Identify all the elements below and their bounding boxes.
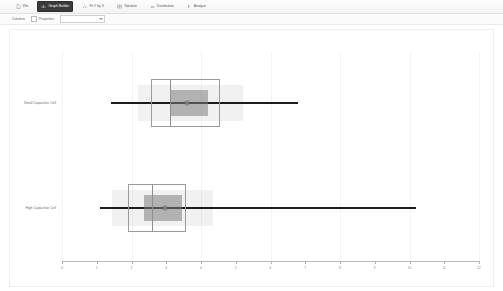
gridline xyxy=(62,52,63,260)
axis-tick xyxy=(166,261,167,264)
axis-tick-label: 7 xyxy=(304,266,306,270)
axis-tick-label: 3 xyxy=(165,266,167,270)
boxplot-chart: 0123456789101112Small Capacitive CellHig… xyxy=(10,30,493,286)
median-line xyxy=(152,185,153,231)
axis-tick xyxy=(444,261,445,264)
application-window: File Graph Builder Fit Y by X Tabulate D… xyxy=(0,0,503,291)
toolbar-item-label: Analyze xyxy=(194,2,206,11)
scatter-icon xyxy=(82,4,87,9)
function-icon xyxy=(187,4,192,9)
iqr-box[interactable] xyxy=(128,184,186,232)
axis-tick-label: 2 xyxy=(131,266,133,270)
axis-tick xyxy=(479,261,480,264)
axis-tick xyxy=(236,261,237,264)
toolbar-item-label: Distribution xyxy=(157,2,174,11)
toolbar-item-graph-builder[interactable]: Graph Builder xyxy=(37,1,73,12)
properties-selector[interactable]: Properties xyxy=(31,15,54,23)
properties-label: Properties xyxy=(39,15,54,23)
toolbar-item-file[interactable]: File xyxy=(12,1,32,12)
axis-tick-label: 8 xyxy=(339,266,341,270)
axis-tick xyxy=(62,261,63,264)
axis-tick-label: 5 xyxy=(235,266,237,270)
mean-marker xyxy=(185,101,190,106)
toolbar-item-label: File xyxy=(23,2,28,11)
axis-tick xyxy=(305,261,306,264)
gridline xyxy=(410,52,411,260)
axis-tick xyxy=(201,261,202,264)
axis-tick xyxy=(132,261,133,264)
median-line xyxy=(170,80,171,126)
value-field[interactable] xyxy=(60,15,105,23)
axis-tick-label: 12 xyxy=(477,266,481,270)
gridline xyxy=(271,52,272,260)
category-label: Small Capacitive Cell xyxy=(10,101,56,106)
axis-tick xyxy=(375,261,376,264)
columns-selector[interactable]: Columns xyxy=(12,15,25,23)
secondary-toolbar: Columns Properties xyxy=(0,14,503,25)
axis-tick-label: 4 xyxy=(200,266,202,270)
axis-tick-label: 9 xyxy=(374,266,376,270)
toolbar-item-label: Fit Y by X xyxy=(89,2,104,11)
category-label: High Capacitive Cell xyxy=(10,206,56,211)
axis-tick xyxy=(97,261,98,264)
table-icon xyxy=(117,4,122,9)
gridline xyxy=(479,52,480,260)
plot-frame: 0123456789101112Small Capacitive CellHig… xyxy=(9,29,494,287)
chart-icon xyxy=(41,4,46,9)
histogram-icon xyxy=(150,4,155,9)
toolbar: File Graph Builder Fit Y by X Tabulate D… xyxy=(0,0,503,14)
toolbar-item-label: Tabulate xyxy=(124,2,137,11)
gridline xyxy=(340,52,341,260)
toolbar-item-label: Graph Builder xyxy=(48,2,69,11)
axis-tick-label: 1 xyxy=(96,266,98,270)
plot-canvas: 0123456789101112Small Capacitive CellHig… xyxy=(0,25,503,291)
axis-tick-label: 0 xyxy=(61,266,63,270)
chevron-down-icon[interactable] xyxy=(99,18,103,20)
axis-tick-label: 10 xyxy=(408,266,412,270)
mean-marker xyxy=(162,206,167,211)
file-icon xyxy=(16,4,21,9)
toolbar-item-fit-y-by-x[interactable]: Fit Y by X xyxy=(78,1,108,12)
checkbox-icon[interactable] xyxy=(31,16,37,22)
axis-tick xyxy=(410,261,411,264)
axis-tick xyxy=(271,261,272,264)
axis-tick xyxy=(340,261,341,264)
columns-label: Columns xyxy=(12,15,25,23)
toolbar-item-distribution[interactable]: Distribution xyxy=(146,1,178,12)
toolbar-item-tabulate[interactable]: Tabulate xyxy=(113,1,141,12)
axis-tick-label: 11 xyxy=(443,266,446,270)
axis-tick-label: 6 xyxy=(270,266,272,270)
toolbar-item-analyze[interactable]: Analyze xyxy=(183,1,210,12)
